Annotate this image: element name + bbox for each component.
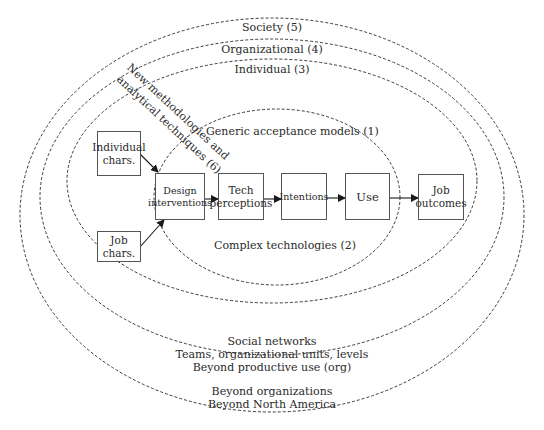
label-individual: Individual (3) [222,63,322,76]
box-design-interventions-label: Design interventions [148,185,212,209]
label-complex-technologies: Complex technologies (2) [214,239,364,252]
box-intentions: Intentions [281,173,327,220]
diagram-canvas: Society (5) Organizational (4) Individua… [0,0,544,430]
note-social-networks: Social networks [0,335,544,349]
label-society: Society (5) [222,21,322,34]
note-beyond-productive-use: Beyond productive use (org) [0,361,544,375]
box-job-chars-label: Job chars. [103,234,136,260]
box-job-chars: Job chars. [97,231,141,262]
box-individual-chars: Individual chars. [97,131,141,176]
box-individual-chars-label: Individual chars. [92,141,145,167]
note-teams-units-levels: Teams, organizational units, levels [0,348,544,362]
box-job-outcomes-label: Job outcomes [415,184,466,210]
box-intentions-label: Intentions [280,191,329,203]
label-organizational: Organizational (4) [212,43,332,56]
box-design-interventions: Design interventions [155,173,205,220]
box-job-outcomes: Job outcomes [418,174,464,220]
arrow-job-to-design [140,220,164,247]
box-tech-perceptions-label: Tech perceptions [210,184,273,210]
note-beyond-organizations: Beyond organizations [0,385,544,399]
note-beyond-north-america: Beyond North America [0,398,544,412]
box-use: Use [345,173,390,220]
box-use-label: Use [356,190,378,204]
box-tech-perceptions: Tech perceptions [218,173,264,220]
label-generic-acceptance: Generic acceptance models (1) [206,125,386,138]
